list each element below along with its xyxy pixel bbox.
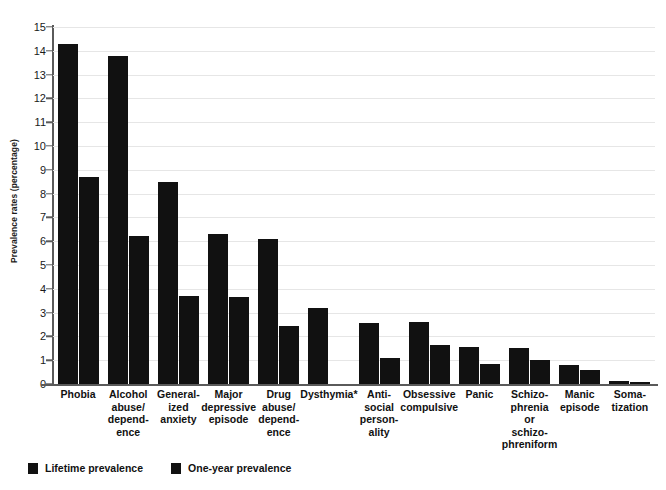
x-axis-label-line: ence bbox=[248, 426, 310, 439]
bar-one-year-prevalence bbox=[480, 364, 500, 384]
bar-group bbox=[258, 27, 299, 384]
bar-one-year-prevalence bbox=[229, 297, 249, 384]
x-axis-label-line: person- bbox=[348, 413, 410, 426]
x-axis-category-label: Soma-tization bbox=[599, 388, 661, 413]
bar-group bbox=[609, 27, 650, 384]
x-axis-label-line: tization bbox=[599, 401, 661, 414]
bar-one-year-prevalence bbox=[79, 177, 99, 384]
plot-area bbox=[53, 27, 655, 384]
x-axis-label-line: abuse/ bbox=[248, 401, 310, 414]
bar-one-year-prevalence bbox=[129, 236, 149, 384]
x-axis-label-line: schizo- bbox=[499, 426, 561, 439]
bar-group bbox=[559, 27, 600, 384]
x-axis-line bbox=[41, 384, 658, 386]
legend-label: One-year prevalence bbox=[188, 462, 291, 474]
y-axis-tick-label: 8 bbox=[8, 188, 46, 200]
legend-swatch-icon bbox=[171, 463, 181, 474]
y-axis-tick-label: 1 bbox=[8, 354, 46, 366]
bar-lifetime-prevalence bbox=[409, 322, 429, 384]
bar-lifetime-prevalence bbox=[609, 381, 629, 384]
y-axis-tick-label: 2 bbox=[8, 330, 46, 342]
legend-item-one-year-prevalence[interactable]: One-year prevalence bbox=[171, 462, 291, 474]
x-axis-label-line: ality bbox=[348, 426, 410, 439]
y-axis-tick-label: 14 bbox=[8, 45, 46, 57]
prevalence-bar-chart: Prevalence rates (percentage) 1514131211… bbox=[0, 0, 666, 490]
bar-one-year-prevalence bbox=[380, 358, 400, 384]
bar-lifetime-prevalence bbox=[58, 44, 78, 384]
bar-group bbox=[409, 27, 450, 384]
y-axis-tick-label: 13 bbox=[8, 69, 46, 81]
y-axis-tick-label: 3 bbox=[8, 307, 46, 319]
bar-lifetime-prevalence bbox=[208, 234, 228, 384]
y-axis-tick-label: 10 bbox=[8, 140, 46, 152]
y-axis-tick-label: 4 bbox=[8, 283, 46, 295]
bar-lifetime-prevalence bbox=[308, 308, 328, 384]
bar-one-year-prevalence bbox=[279, 326, 299, 384]
chart-legend: Lifetime prevalenceOne-year prevalence bbox=[28, 462, 291, 474]
bar-group bbox=[158, 27, 199, 384]
x-axis-label-line: phreniform bbox=[499, 438, 561, 451]
legend-item-lifetime-prevalence[interactable]: Lifetime prevalence bbox=[28, 462, 143, 474]
bar-one-year-prevalence bbox=[179, 296, 199, 384]
bar-group bbox=[359, 27, 400, 384]
bar-group bbox=[509, 27, 550, 384]
legend-swatch-icon bbox=[28, 463, 38, 474]
y-axis-tick-group: 1514131211109876543210 bbox=[0, 0, 46, 490]
x-axis-label-line: depend- bbox=[248, 413, 310, 426]
bar-lifetime-prevalence bbox=[258, 239, 278, 384]
y-axis-tick-label: 11 bbox=[8, 116, 46, 128]
bar-group bbox=[58, 27, 99, 384]
bar-group bbox=[459, 27, 500, 384]
legend-label: Lifetime prevalence bbox=[45, 462, 143, 474]
x-axis-label-line: compulsive bbox=[398, 401, 460, 414]
bar-lifetime-prevalence bbox=[108, 56, 128, 384]
bar-one-year-prevalence bbox=[530, 360, 550, 384]
bar-group bbox=[208, 27, 249, 384]
bar-lifetime-prevalence bbox=[359, 323, 379, 384]
y-axis-tick-label: 15 bbox=[8, 21, 46, 33]
y-axis-tick-label: 12 bbox=[8, 92, 46, 104]
y-axis-tick-label: 5 bbox=[8, 259, 46, 271]
x-axis-label-line: Soma- bbox=[599, 388, 661, 401]
x-axis-label-line: or bbox=[499, 413, 561, 426]
x-axis-label-line: ence bbox=[97, 426, 159, 439]
bar-lifetime-prevalence bbox=[509, 348, 529, 384]
bar-lifetime-prevalence bbox=[158, 182, 178, 384]
bar-one-year-prevalence bbox=[580, 370, 600, 384]
y-axis-tick-label: 6 bbox=[8, 235, 46, 247]
bar-lifetime-prevalence bbox=[459, 347, 479, 384]
bar-one-year-prevalence bbox=[630, 382, 650, 384]
y-axis-tick-label: 7 bbox=[8, 211, 46, 223]
bar-group bbox=[308, 27, 349, 384]
y-axis-tick-label: 9 bbox=[8, 164, 46, 176]
bar-group bbox=[108, 27, 149, 384]
bar-lifetime-prevalence bbox=[559, 365, 579, 384]
bar-one-year-prevalence bbox=[430, 345, 450, 384]
